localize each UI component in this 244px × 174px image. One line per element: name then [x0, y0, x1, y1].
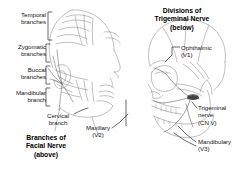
label-mandibulary-v3: Mandibulary (V3): [198, 138, 243, 153]
label-trigeminal-nerve-cn-v: Trigeminal nerve (CN V): [198, 104, 242, 126]
label-mandibular-branch: Mandibular branch: [2, 89, 46, 104]
title-divisions-of-trigeminal-nerve: Divisions of Trigeminal Nerve (below): [130, 7, 234, 32]
anatomy-figure: Temporal branches Zygomatic branches Buc…: [0, 0, 244, 174]
facial-nerve-brackets: [46, 12, 52, 106]
title-branches-of-facial-nerve: Branches of Facial Nerve (above): [6, 134, 86, 159]
label-cervical-branch: Cervical branch: [40, 112, 76, 127]
label-zygomatic-branches: Zygomatic branches: [2, 43, 46, 58]
label-ophthalmic-v1: Ophthalmic (V1): [181, 44, 227, 59]
label-buccal-branches: Buccal branches: [2, 66, 46, 81]
label-temporal-branches: Temporal branches: [2, 11, 46, 26]
